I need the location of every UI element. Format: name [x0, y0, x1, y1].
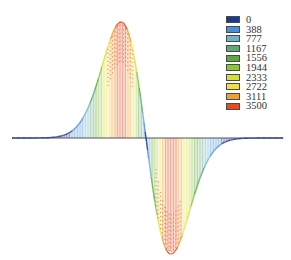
- legend-swatch: [226, 103, 240, 110]
- legend-swatch: [226, 35, 240, 42]
- legend-swatch: [226, 83, 240, 90]
- legend-swatch: [226, 45, 240, 52]
- legend-swatch: [226, 55, 240, 62]
- legend-swatch: [226, 93, 240, 100]
- legend-swatch: [226, 64, 240, 71]
- legend-swatch: [226, 16, 240, 23]
- legend: 0 388 777 1167 1556 1944 2333 2722 3111 …: [226, 15, 267, 111]
- legend-swatch: [226, 74, 240, 81]
- legend-label: 3500: [246, 101, 267, 111]
- legend-item: 3500: [226, 101, 267, 111]
- legend-swatch: [226, 26, 240, 33]
